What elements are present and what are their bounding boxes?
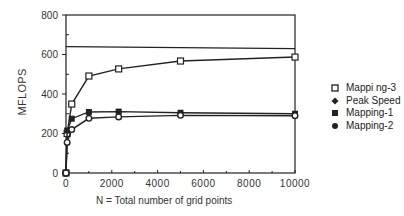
series-line: [66, 112, 295, 173]
legend-item-peak-speed: Peak Speed: [328, 95, 401, 108]
y-tick-label: 600: [41, 49, 58, 60]
filled-square-marker-icon: [86, 109, 92, 115]
x-axis-label: N = Total number of grid points: [96, 195, 232, 206]
diamond-marker-icon: [328, 97, 342, 105]
open-square-marker-icon: [292, 54, 298, 60]
legend-label: Mapping-2: [346, 120, 393, 133]
filled-square-marker-icon: [328, 109, 342, 117]
x-tick-label: 8000: [237, 178, 261, 189]
filled-circle-marker-icon: [64, 140, 70, 146]
open-square-marker-icon: [178, 58, 184, 64]
legend-label: Mappi ng-3: [346, 82, 396, 95]
peak-speed-line: [66, 47, 295, 49]
series-line: [66, 115, 295, 173]
filled-circle-marker-icon: [292, 113, 298, 119]
open-square-marker-icon: [328, 84, 342, 92]
filled-square-marker-icon: [69, 116, 75, 122]
filled-circle-marker-icon: [116, 114, 122, 120]
open-square-marker-icon: [69, 101, 75, 107]
filled-circle-marker-icon: [178, 113, 184, 119]
open-square-marker-icon: [116, 66, 122, 72]
x-tick-label: 10000: [280, 178, 310, 189]
y-axis-label: MFLOPS: [16, 68, 28, 115]
y-tick-label: 0: [52, 168, 58, 179]
filled-circle-marker-icon: [328, 122, 342, 130]
origin-marker-icon: [63, 170, 69, 176]
legend-item-mapping-2: Mapping-2: [328, 120, 401, 133]
open-square-marker-icon: [86, 73, 92, 79]
legend-label: Mapping-1: [346, 107, 393, 120]
legend-item-mapping-1: Mapping-1: [328, 107, 401, 120]
legend-item-mapping-3: Mappi ng-3: [328, 82, 401, 95]
y-tick-label: 400: [41, 89, 58, 100]
x-tick-label: 4000: [145, 178, 169, 189]
x-tick-label: 0: [63, 178, 69, 189]
plot-frame: [66, 15, 295, 173]
y-tick-label: 800: [41, 10, 58, 21]
filled-circle-marker-icon: [86, 115, 92, 121]
x-tick-label: 2000: [100, 178, 124, 189]
filled-circle-marker-icon: [69, 127, 75, 133]
y-tick-label: 200: [41, 128, 58, 139]
legend: Mappi ng-3 Peak Speed Mapping-1 Mapping-…: [328, 82, 401, 132]
legend-label: Peak Speed: [346, 95, 401, 108]
x-tick-label: 6000: [191, 178, 215, 189]
